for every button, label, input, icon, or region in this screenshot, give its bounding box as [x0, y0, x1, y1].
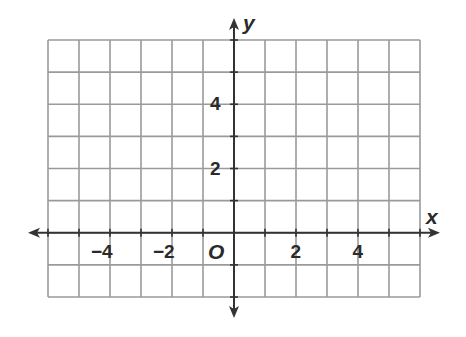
y-axis-label: y — [243, 12, 255, 33]
y-tick-label: 2 — [210, 159, 221, 178]
y-tick-label: 4 — [210, 94, 221, 113]
x-tick-label: 4 — [353, 242, 364, 261]
origin-label: O — [208, 241, 224, 262]
coordinate-plane — [0, 0, 466, 337]
x-tick-label: −2 — [153, 242, 175, 261]
x-axis-label: x — [426, 206, 438, 227]
x-tick-label: −4 — [91, 242, 113, 261]
x-tick-label: 2 — [291, 242, 302, 261]
